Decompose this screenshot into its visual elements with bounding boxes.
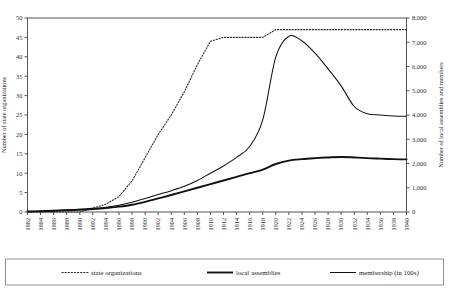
x-axis-tick-label: 1918 [259,218,266,230]
x-axis-tick-label: 1934 [364,218,371,230]
x-axis-tick-label: 1932 [351,218,358,230]
y2-axis-tick-label: 8,000 [412,14,426,21]
y-axis-tick-label: 50 [16,14,22,21]
series-line-local-assemblies [28,157,407,212]
x-axis-tick-label: 1916 [246,218,253,230]
chart-figure: 0510152025303540455001,0002,0003,0004,00… [0,0,449,290]
y-axis-title: Number of state organizations [0,76,7,152]
y-axis-tick-label: 10 [16,170,22,177]
x-axis-tick-label: 1914 [233,218,240,230]
x-axis-tick-label: 1936 [377,218,384,230]
x-axis-tick-label: 1892 [89,218,96,230]
y-axis-tick-label: 30 [16,92,22,99]
x-axis-tick-label: 1930 [337,218,344,230]
x-axis-tick-label: 1900 [141,218,148,230]
y-axis-tick-label: 20 [16,131,22,138]
y2-axis-tick-label: 3,000 [412,136,426,143]
y2-axis-tick-label: 7,000 [412,39,426,46]
x-axis-tick-label: 1912 [220,218,227,230]
x-axis-tick-label: 1940 [403,218,410,230]
y-axis-tick-label: 25 [16,111,22,118]
x-axis-tick-label: 1890 [76,218,83,230]
y2-axis-tick-label: 5,000 [412,87,426,94]
x-axis-tick-label: 1924 [298,218,305,230]
x-axis-tick-label: 1908 [194,218,201,230]
x-axis-tick-label: 1926 [311,218,318,230]
x-axis-tick-label: 1888 [63,218,70,230]
y-axis-tick-label: 5 [19,189,22,196]
series-line-membership [28,35,407,211]
x-axis-tick-label: 1884 [37,218,44,230]
x-axis-tick-label: 1902 [154,218,161,230]
legend-label: membership (in 100s) [359,269,419,277]
x-axis-tick-label: 1898 [128,218,135,230]
y2-axis-tick-label: 2,000 [412,160,426,167]
x-axis-tick-label: 1896 [115,218,122,230]
x-axis-tick-label: 1922 [285,218,292,230]
x-axis-tick-label: 1906 [181,218,188,230]
x-axis-tick-label: 1886 [50,218,57,230]
legend-label: state organizations [91,269,142,276]
y-axis-tick-label: 35 [16,73,22,80]
y2-axis-tick-label: 6,000 [412,63,426,70]
x-axis-tick-label: 1882 [24,218,31,230]
x-axis-tick-label: 1904 [168,218,175,230]
y2-axis-title: Number of local assemblies and members [437,62,444,168]
legend-item[interactable]: state organizations [62,269,142,276]
x-axis-tick-label: 1938 [390,218,397,230]
y2-axis-tick-label: 1,000 [412,184,426,191]
y-axis-tick-label: 40 [16,53,22,60]
y2-axis-tick-label: 0 [412,208,415,215]
legend-item[interactable]: local assemblies [207,269,281,276]
legend-label: local assemblies [236,269,281,276]
y2-axis-tick-label: 4,000 [412,111,426,118]
x-axis-tick-label: 1928 [324,218,331,230]
x-axis-tick-label: 1920 [272,218,279,230]
line-chart: 0510152025303540455001,0002,0003,0004,00… [0,0,449,290]
legend-item[interactable]: membership (in 100s) [330,269,419,277]
y-axis-tick-label: 0 [19,208,22,215]
y-axis-tick-label: 45 [16,34,22,41]
x-axis-tick-label: 1894 [102,218,109,230]
y-axis-tick-label: 15 [16,150,22,157]
x-axis-tick-label: 1910 [207,218,214,230]
series-line-state-organizations [28,30,407,212]
